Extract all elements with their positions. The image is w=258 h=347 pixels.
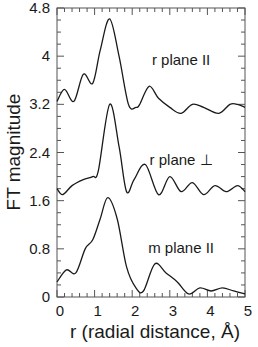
x-tick-label: 1: [93, 302, 101, 319]
ft-magnitude-chart: 012345 00.81.62.43.244.8 r plane IIr pla…: [0, 0, 258, 347]
y-tick-label: 4.8: [29, 0, 50, 16]
y-tick-label: 2.4: [29, 144, 50, 161]
x-tick-label: 4: [206, 302, 214, 319]
x-tick-label: 3: [169, 302, 177, 319]
y-tick-label: 0: [42, 288, 50, 305]
y-tick-labels: 00.81.62.43.244.8: [29, 0, 50, 305]
x-tick-label: 5: [244, 302, 252, 319]
plot-annotations: r plane IIr plane ⊥m plane II: [148, 51, 214, 256]
x-axis-title: r (radial distance, Å): [70, 321, 240, 342]
series-annotation: r plane II: [152, 51, 210, 68]
y-tick-label: 3.2: [29, 95, 50, 112]
y-tick-label: 0.8: [29, 240, 50, 257]
x-tick-labels: 012345: [56, 302, 252, 319]
x-tick-label: 0: [56, 302, 64, 319]
y-tick-label: 1.6: [29, 192, 50, 209]
y-tick-label: 4: [42, 47, 50, 64]
series-annotation: m plane II: [148, 239, 214, 256]
series-line-1: [57, 104, 245, 195]
y-axis-title: FT magnitude: [3, 94, 24, 211]
x-tick-label: 2: [131, 302, 139, 319]
series-annotation: r plane ⊥: [150, 151, 213, 168]
